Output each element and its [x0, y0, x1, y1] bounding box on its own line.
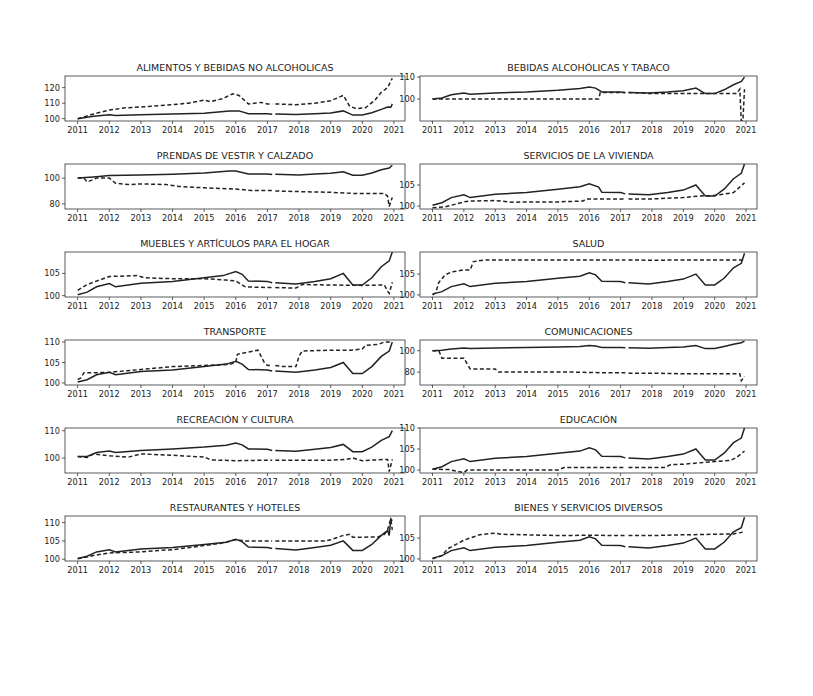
x-tick-label: 2016	[225, 565, 246, 575]
axes-frame	[65, 76, 405, 121]
x-tick-label: 2011	[67, 125, 88, 135]
x-tick-label: 2018	[642, 477, 663, 487]
x-tick-label: 2016	[579, 301, 600, 311]
x-tick-label: 2021	[736, 565, 757, 575]
x-tick-label: 2017	[257, 125, 278, 135]
x-tick-label: 2018	[289, 213, 310, 223]
x-tick-label: 2016	[225, 301, 246, 311]
x-tick-label: 2012	[99, 125, 120, 135]
x-tick-label: 2017	[610, 301, 631, 311]
x-tick-label: 2017	[610, 125, 631, 135]
x-tick-label: 2013	[130, 213, 151, 223]
x-tick-label: 2021	[384, 301, 405, 311]
solid-series-line	[78, 443, 273, 457]
subplot-8: COMUNICACIONES20112012201320142015201620…	[399, 326, 757, 399]
x-tick-label: 2018	[289, 477, 310, 487]
x-tick-label: 2014	[162, 477, 183, 487]
subplot-title: BIENES Y SERVICIOS DIVERSOS	[514, 502, 662, 513]
y-tick-label: 100	[44, 114, 60, 124]
figure: ALIMENTOS Y BEBIDAS NO ALCOHOLICAS201120…	[0, 0, 813, 696]
solid-series-line	[433, 537, 626, 558]
x-tick-label: 2018	[289, 389, 310, 399]
y-tick-label: 100	[399, 290, 415, 300]
axes-frame	[65, 252, 405, 297]
y-tick-label: 105	[44, 268, 60, 278]
x-tick-label: 2017	[610, 565, 631, 575]
x-tick-label: 2020	[704, 565, 725, 575]
y-tick-label: 100	[399, 554, 415, 564]
x-tick-label: 2019	[673, 213, 694, 223]
subplot-title: TRANSPORTE	[203, 326, 267, 337]
y-tick-label: 110	[44, 337, 60, 347]
y-tick-label: 110	[44, 426, 60, 436]
x-tick-label: 2013	[485, 301, 506, 311]
y-tick-label: 100	[399, 201, 415, 211]
x-tick-label: 2014	[162, 389, 183, 399]
subplot-2: BEBIDAS ALCOHÓLICAS Y TABACO201120122013…	[399, 62, 757, 135]
x-tick-label: 2015	[548, 477, 569, 487]
x-tick-label: 2016	[225, 389, 246, 399]
x-tick-label: 2020	[704, 213, 725, 223]
x-tick-label: 2013	[485, 565, 506, 575]
x-tick-label: 2021	[384, 213, 405, 223]
x-tick-label: 2019	[673, 301, 694, 311]
x-tick-label: 2017	[610, 389, 631, 399]
x-tick-label: 2015	[548, 125, 569, 135]
x-tick-label: 2021	[384, 389, 405, 399]
x-tick-label: 2012	[453, 301, 474, 311]
solid-series-line	[433, 87, 626, 99]
x-tick-label: 2020	[704, 477, 725, 487]
axes-frame	[65, 516, 405, 561]
x-tick-label: 2017	[257, 477, 278, 487]
solid-series-line	[433, 448, 626, 469]
x-tick-label: 2011	[67, 477, 88, 487]
x-tick-label: 2020	[352, 565, 373, 575]
axes-frame	[65, 428, 405, 473]
x-tick-label: 2015	[548, 565, 569, 575]
x-tick-label: 2011	[422, 301, 443, 311]
y-tick-label: 100	[399, 465, 415, 475]
x-tick-label: 2021	[736, 301, 757, 311]
x-tick-label: 2011	[67, 565, 88, 575]
x-tick-label: 2011	[422, 477, 443, 487]
x-tick-label: 2012	[99, 565, 120, 575]
x-tick-label: 2012	[99, 213, 120, 223]
subplot-5: MUEBLES Y ARTÍCULOS PARA EL HOGAR2011201…	[44, 238, 405, 311]
solid-series-line	[629, 253, 745, 285]
subplot-10: EDUCACIÓN2011201220132014201520162017201…	[399, 414, 757, 487]
x-tick-label: 2011	[422, 125, 443, 135]
x-tick-label: 2019	[673, 389, 694, 399]
subplot-title: COMUNICACIONES	[544, 326, 632, 337]
solid-series-line	[275, 165, 392, 175]
x-tick-label: 2014	[516, 477, 537, 487]
axes-frame	[420, 516, 757, 561]
dashed-series-line	[275, 519, 392, 541]
y-tick-label: 105	[44, 536, 60, 546]
subplot-4: SERVICIOS DE LA VIVIENDA2011201220132014…	[399, 150, 757, 223]
x-tick-label: 2015	[548, 389, 569, 399]
x-tick-label: 2015	[194, 389, 215, 399]
x-tick-label: 2016	[225, 213, 246, 223]
x-tick-label: 2018	[642, 389, 663, 399]
y-tick-label: 100	[44, 453, 60, 463]
solid-series-line	[629, 517, 745, 549]
subplot-title: PRENDAS DE VESTIR Y CALZADO	[157, 150, 313, 161]
x-tick-label: 2012	[99, 389, 120, 399]
axes-frame	[420, 164, 757, 209]
x-tick-label: 2019	[320, 477, 341, 487]
y-tick-label: 100	[44, 554, 60, 564]
x-tick-label: 2020	[352, 213, 373, 223]
subplot-title: EDUCACIÓN	[560, 414, 617, 425]
dashed-series-line	[629, 373, 745, 381]
x-tick-label: 2014	[516, 301, 537, 311]
subplot-title: SERVICIOS DE LA VIVIENDA	[523, 150, 654, 161]
x-tick-label: 2014	[516, 213, 537, 223]
solid-series-line	[275, 342, 392, 374]
x-tick-label: 2012	[453, 389, 474, 399]
x-tick-label: 2016	[225, 477, 246, 487]
y-tick-label: 120	[44, 83, 60, 93]
x-tick-label: 2014	[162, 125, 183, 135]
x-tick-label: 2020	[352, 125, 373, 135]
x-tick-label: 2020	[352, 477, 373, 487]
x-tick-label: 2014	[516, 125, 537, 135]
